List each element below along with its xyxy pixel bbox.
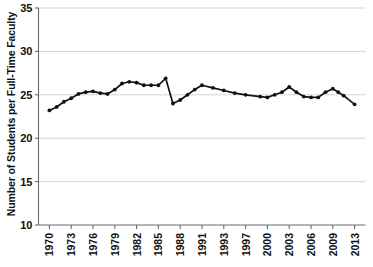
y-tick-label: 15 (20, 176, 32, 188)
data-point (353, 102, 357, 106)
data-point (302, 95, 306, 99)
y-axis-tick-labels: 353025201510 (20, 2, 32, 231)
x-tick-label: 2013 (349, 233, 361, 257)
y-tick-label: 30 (20, 45, 32, 57)
line-chart-plot: 353025201510 197019731976197919821985198… (0, 0, 373, 267)
data-point (48, 109, 52, 113)
data-point (324, 90, 328, 94)
data-point (106, 92, 110, 96)
data-point (120, 82, 124, 86)
data-point (342, 94, 346, 98)
data-point (113, 88, 117, 92)
data-point (135, 81, 139, 85)
data-point (69, 96, 73, 100)
x-tick-label: 1976 (87, 233, 99, 257)
x-tick-label: 1993 (218, 233, 230, 257)
x-tick-label: 1982 (131, 233, 143, 257)
data-point (164, 76, 168, 80)
series-line (49, 78, 354, 110)
data-point (295, 90, 299, 94)
data-point (309, 96, 313, 100)
data-point (316, 96, 320, 100)
data-point (193, 88, 197, 92)
data-point (233, 91, 237, 95)
data-point (98, 91, 102, 95)
data-point (127, 80, 131, 84)
data-point (211, 86, 215, 90)
data-point (222, 89, 226, 93)
x-tick-label: 2003 (283, 233, 295, 257)
chart-container: Number of Students per Full-Time Faculty… (0, 0, 373, 267)
data-point (62, 100, 66, 104)
x-axis-tick-labels: 1970197319761979198219851988199119931997… (43, 233, 360, 257)
x-tick-label: 2006 (305, 233, 317, 257)
data-point (258, 95, 262, 99)
gridlines-group (39, 8, 366, 182)
data-point (244, 93, 248, 97)
x-tick-label: 1973 (65, 233, 77, 257)
data-point (142, 83, 146, 87)
y-tick-label: 25 (20, 89, 32, 101)
data-series-students-per-faculty (48, 76, 357, 112)
data-point (186, 93, 190, 97)
data-point (157, 83, 161, 87)
data-point (273, 93, 277, 97)
x-tick-label: 1979 (109, 233, 121, 257)
y-tick-label: 10 (20, 219, 32, 231)
y-tick-label: 35 (20, 2, 32, 14)
x-tick-label: 1970 (43, 233, 55, 257)
data-point (171, 102, 175, 106)
data-point (149, 83, 153, 87)
data-point (91, 89, 95, 93)
data-point (178, 98, 182, 102)
x-tick-label: 1985 (152, 233, 164, 257)
x-tick-label: 2009 (327, 233, 339, 257)
data-point (336, 90, 340, 94)
data-point (77, 92, 81, 96)
data-point (55, 105, 59, 109)
data-point (331, 87, 335, 91)
x-tick-label: 1991 (196, 233, 208, 257)
y-tick-label: 20 (20, 132, 32, 144)
x-axis-group (39, 225, 366, 229)
data-point (200, 83, 204, 87)
x-tick-label: 2000 (261, 233, 273, 257)
data-point (287, 85, 291, 89)
data-point (280, 90, 284, 94)
series-markers (48, 76, 357, 112)
x-tick-label: 1988 (174, 233, 186, 257)
data-point (266, 96, 270, 100)
y-axis-group (35, 8, 39, 225)
x-tick-label: 1997 (240, 233, 252, 257)
data-point (84, 90, 88, 94)
